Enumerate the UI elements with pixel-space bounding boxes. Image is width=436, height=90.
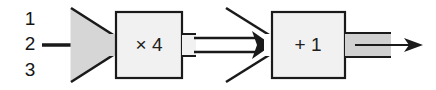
- offset-block-label: + 1: [295, 34, 322, 55]
- gain-block[interactable]: × 4: [108, 12, 196, 78]
- input-label-1: 1: [25, 8, 36, 29]
- input-label-3: 3: [25, 59, 36, 80]
- gain-block-label: × 4: [136, 34, 163, 55]
- mid-arrow: [194, 31, 272, 59]
- input-label-2: 2: [25, 33, 36, 54]
- diagram-canvas: 1 2 3 × 4: [0, 0, 436, 90]
- offset-block[interactable]: + 1: [264, 12, 345, 78]
- signal-flow-diagram: 1 2 3 × 4: [0, 0, 436, 90]
